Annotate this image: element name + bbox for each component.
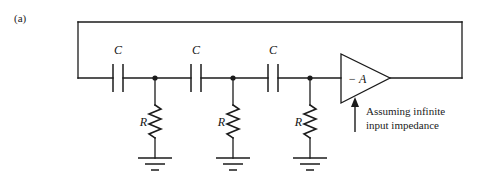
resistor-branch-1 [149, 78, 161, 158]
capacitor-2 [191, 64, 201, 92]
resistor-zigzag [149, 105, 161, 138]
annotation-text: Assuming infinite input impedance [366, 105, 445, 132]
resistor-label-1: R [140, 115, 147, 130]
resistor-label-2: R [218, 115, 225, 130]
capacitor-label-2: C [192, 43, 200, 58]
annotation-arrow-head [351, 97, 359, 107]
annotation-line-1: Assuming infinite [366, 105, 445, 119]
annotation-line-2: input impedance [366, 119, 445, 133]
ground-symbol-3 [293, 158, 327, 170]
resistor-zigzag [227, 105, 239, 138]
circuit-schematic [0, 0, 481, 185]
panel-label: (a) [14, 12, 26, 24]
amplifier-gain-label: − A [348, 72, 366, 87]
capacitor-label-1: C [114, 43, 122, 58]
circuit-figure: (a) C C C R R R − A Assuming infinite in… [0, 0, 481, 185]
capacitor-1 [113, 64, 123, 92]
annotation-arrow [351, 97, 359, 132]
resistor-branch-2 [227, 78, 239, 158]
ground-symbol-2 [216, 158, 250, 170]
resistor-branch-3 [304, 78, 316, 158]
capacitor-3 [268, 64, 278, 92]
resistor-label-3: R [295, 115, 302, 130]
ground-symbol-1 [138, 158, 172, 170]
resistor-zigzag [304, 105, 316, 138]
capacitor-label-3: C [269, 43, 277, 58]
